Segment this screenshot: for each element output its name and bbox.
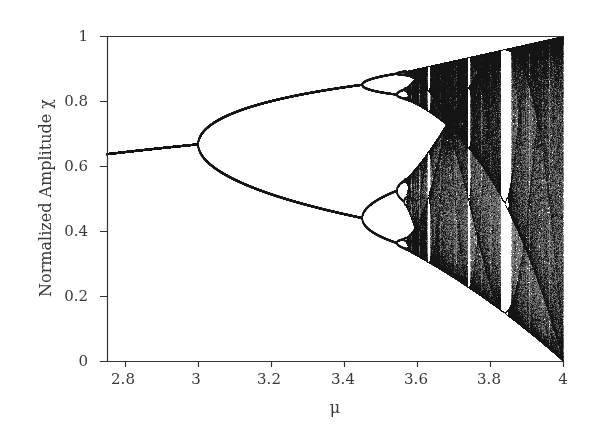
y-axis-label: Normalized Amplitude χ [36, 99, 55, 297]
x-tick-label: 3.8 [477, 370, 501, 388]
bifurcation-chart: 2.8 3 3.2 3.4 3.6 3.8 4 1 0.8 0.6 0.4 0.… [0, 0, 598, 443]
y-tick-label: 1 [48, 27, 88, 45]
x-tick-label: 3.4 [331, 370, 355, 388]
y-tick-label: 0 [48, 352, 88, 370]
x-tick-label: 4 [558, 370, 568, 388]
x-axis-label: μ [330, 398, 340, 417]
x-tick-label: 2.8 [111, 370, 135, 388]
x-tick-label: 3 [191, 370, 201, 388]
plot-area [0, 0, 598, 443]
x-tick-label: 3.2 [257, 370, 281, 388]
x-tick-label: 3.6 [404, 370, 428, 388]
